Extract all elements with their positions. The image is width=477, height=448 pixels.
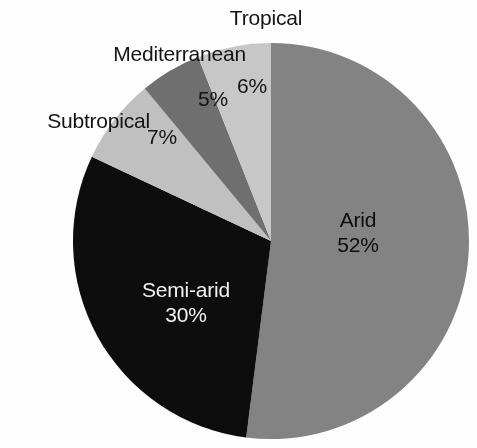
pie-value-mediterranean: 5% <box>198 87 228 112</box>
pie-label-tropical: Tropical <box>230 6 302 31</box>
pie-value-subtropical: 7% <box>147 125 177 150</box>
pie-label-arid: Arid 52% <box>337 207 378 257</box>
pie-label-mediterranean: Mediterranean <box>113 42 246 67</box>
pie-label-arid-name: Arid <box>337 207 378 232</box>
pie-label-semi-arid: Semi-arid 30% <box>142 277 230 327</box>
pie-value-arid: 52% <box>337 232 378 257</box>
pie-chart: Tropical Mediterranean Subtropical 6% 5%… <box>0 0 477 448</box>
pie-value-tropical: 6% <box>237 74 267 99</box>
pie-chart-canvas <box>0 0 477 448</box>
pie-value-semi-arid: 30% <box>142 302 230 327</box>
pie-label-semi-arid-name: Semi-arid <box>142 277 230 302</box>
pie-label-subtropical: Subtropical <box>47 109 150 134</box>
